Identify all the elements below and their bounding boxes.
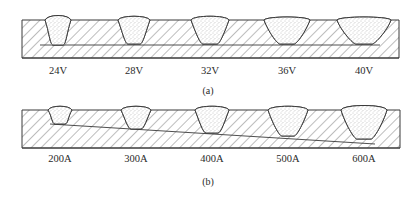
weld-bead-diagram: 24V28V32V36V40V 200A300A400A500A600A (a)… <box>0 0 418 201</box>
bead-label: 32V <box>201 65 220 76</box>
bead-label: 24V <box>49 65 68 76</box>
bead-label: 400A <box>200 153 224 164</box>
bead-label: 36V <box>278 65 297 76</box>
panel-b-current: 200A300A400A500A600A <box>22 106 400 165</box>
panel-b-caption: (b) <box>202 176 214 188</box>
bead-label: 28V <box>125 65 144 76</box>
panel-a-caption: (a) <box>202 85 213 97</box>
bead-label: 40V <box>355 65 374 76</box>
bead-label: 200A <box>48 153 72 164</box>
bead-label: 300A <box>124 153 148 164</box>
bead-label: 500A <box>276 153 300 164</box>
bead-label: 600A <box>352 153 376 164</box>
panel-a-voltage: 24V28V32V36V40V <box>22 16 399 77</box>
